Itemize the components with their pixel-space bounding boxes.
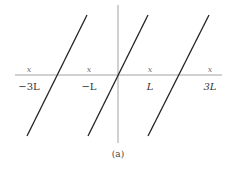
tick-label-negL: −L <box>81 82 96 92</box>
tick-mark-negL: x <box>87 66 92 74</box>
tick-mark-3L: x <box>208 66 213 74</box>
tick-label-neg3L: −3L <box>18 82 39 92</box>
tick-label-3L: 3L <box>203 82 216 92</box>
tick-mark-L: x <box>148 66 153 74</box>
tick-label-L: L <box>147 82 154 92</box>
tick-mark-neg3L: x <box>27 66 32 74</box>
left-line <box>27 15 87 136</box>
figure-caption: (a) <box>112 149 124 159</box>
periodic-lines-figure: x x x x −3L −L L 3L (a) <box>0 0 234 171</box>
right-line <box>148 15 209 136</box>
